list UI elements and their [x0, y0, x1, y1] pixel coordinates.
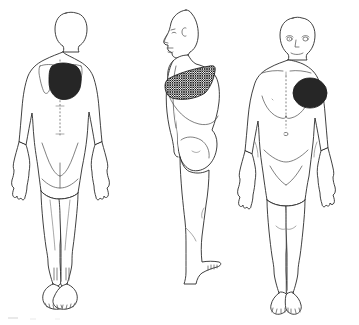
posterior-leg-left — [41, 191, 61, 286]
scan-artifact — [8, 318, 60, 319]
lateral-leg — [180, 157, 221, 284]
body-chart-diagram — [0, 0, 359, 325]
anterior-leg-right — [286, 200, 305, 295]
figure-lateral — [163, 10, 221, 284]
anterior-hip-left — [255, 142, 258, 157]
posterior-head — [55, 12, 87, 52]
anterior-arm-right — [317, 148, 335, 207]
anterior-arm-left — [238, 151, 256, 209]
posterior-leg-right — [59, 193, 78, 286]
anterior-head — [280, 17, 315, 60]
figure-anterior — [238, 17, 336, 314]
figure-posterior — [12, 12, 110, 309]
anterior-hip-right — [314, 142, 317, 157]
body-chart-canvas — [0, 0, 359, 325]
posterior-arm-left — [12, 142, 30, 200]
anterior-leg-left — [267, 200, 287, 295]
lateral-head — [164, 10, 199, 58]
posterior-arm-right — [91, 142, 109, 200]
